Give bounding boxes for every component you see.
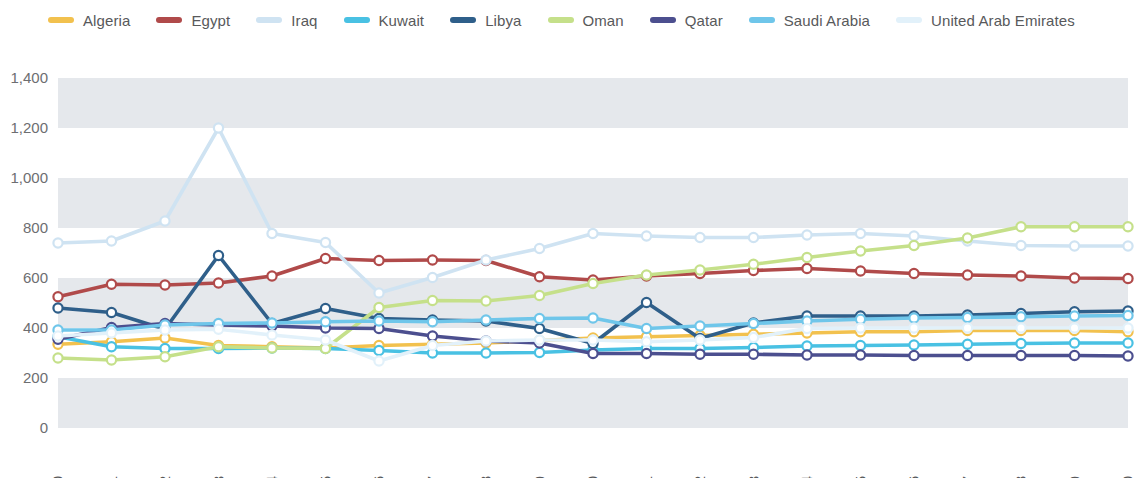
data-point-marker[interactable] [1016,271,1025,280]
data-point-marker[interactable] [1123,241,1132,250]
data-point-marker[interactable] [856,341,865,350]
data-point-marker[interactable] [642,349,651,358]
data-point-marker[interactable] [802,253,811,262]
data-point-marker[interactable] [374,288,383,297]
data-point-marker[interactable] [1016,222,1025,231]
data-point-marker[interactable] [1123,323,1132,332]
data-point-marker[interactable] [374,303,383,312]
data-point-marker[interactable] [695,265,704,274]
data-point-marker[interactable] [856,323,865,332]
data-point-marker[interactable] [481,315,490,324]
data-point-marker[interactable] [695,335,704,344]
data-point-marker[interactable] [642,298,651,307]
data-point-marker[interactable] [588,229,597,238]
data-point-marker[interactable] [856,266,865,275]
data-point-marker[interactable] [642,324,651,333]
data-point-marker[interactable] [214,251,223,260]
data-point-marker[interactable] [374,346,383,355]
data-point-marker[interactable] [321,304,330,313]
data-point-marker[interactable] [1123,311,1132,320]
data-point-marker[interactable] [802,324,811,333]
data-point-marker[interactable] [107,342,116,351]
data-point-marker[interactable] [107,308,116,317]
data-point-marker[interactable] [214,342,223,351]
data-point-marker[interactable] [53,331,62,340]
data-point-marker[interactable] [214,278,223,287]
data-point-marker[interactable] [963,270,972,279]
data-point-marker[interactable] [1070,241,1079,250]
data-point-marker[interactable] [642,270,651,279]
data-point-marker[interactable] [749,260,758,269]
data-point-marker[interactable] [749,233,758,242]
data-point-marker[interactable] [909,323,918,332]
data-point-marker[interactable] [1070,273,1079,282]
data-point-marker[interactable] [535,291,544,300]
data-point-marker[interactable] [374,256,383,265]
data-point-marker[interactable] [214,123,223,132]
data-point-marker[interactable] [802,264,811,273]
data-point-marker[interactable] [963,313,972,322]
data-point-marker[interactable] [1123,274,1132,283]
data-point-marker[interactable] [535,314,544,323]
data-point-marker[interactable] [749,333,758,342]
data-point-marker[interactable] [695,233,704,242]
data-point-marker[interactable] [1070,222,1079,231]
data-point-marker[interactable] [963,323,972,332]
data-point-marker[interactable] [1016,241,1025,250]
data-point-marker[interactable] [909,241,918,250]
data-point-marker[interactable] [909,231,918,240]
data-point-marker[interactable] [1016,351,1025,360]
data-point-marker[interactable] [267,229,276,238]
data-point-marker[interactable] [588,335,597,344]
data-point-marker[interactable] [535,244,544,253]
data-point-marker[interactable] [481,296,490,305]
data-point-marker[interactable] [856,246,865,255]
data-point-marker[interactable] [909,340,918,349]
data-point-marker[interactable] [374,356,383,365]
data-point-marker[interactable] [535,348,544,357]
data-point-marker[interactable] [1123,222,1132,231]
data-point-marker[interactable] [428,331,437,340]
data-point-marker[interactable] [374,316,383,325]
data-point-marker[interactable] [107,236,116,245]
data-point-marker[interactable] [1123,338,1132,347]
data-point-marker[interactable] [321,317,330,326]
data-point-marker[interactable] [802,341,811,350]
data-point-marker[interactable] [1070,323,1079,332]
data-point-marker[interactable] [1123,351,1132,360]
data-point-marker[interactable] [963,340,972,349]
data-point-marker[interactable] [802,350,811,359]
data-point-marker[interactable] [481,255,490,264]
data-point-marker[interactable] [695,350,704,359]
data-point-marker[interactable] [107,328,116,337]
data-point-marker[interactable] [481,348,490,357]
data-point-marker[interactable] [535,324,544,333]
data-point-marker[interactable] [160,216,169,225]
data-point-marker[interactable] [749,319,758,328]
data-point-marker[interactable] [428,341,437,350]
data-point-marker[interactable] [856,350,865,359]
data-point-marker[interactable] [856,229,865,238]
data-point-marker[interactable] [160,325,169,334]
data-point-marker[interactable] [909,313,918,322]
data-point-marker[interactable] [535,272,544,281]
data-point-marker[interactable] [481,336,490,345]
data-point-marker[interactable] [642,231,651,240]
data-point-marker[interactable] [321,238,330,247]
data-point-marker[interactable] [1070,338,1079,347]
data-point-marker[interactable] [267,330,276,339]
data-point-marker[interactable] [588,349,597,358]
data-point-marker[interactable] [107,280,116,289]
data-point-marker[interactable] [802,230,811,239]
data-point-marker[interactable] [963,233,972,242]
data-point-marker[interactable] [267,271,276,280]
data-point-marker[interactable] [428,296,437,305]
data-point-marker[interactable] [909,269,918,278]
data-point-marker[interactable] [267,343,276,352]
data-point-marker[interactable] [428,273,437,282]
data-point-marker[interactable] [588,313,597,322]
data-point-marker[interactable] [695,321,704,330]
data-point-marker[interactable] [53,303,62,312]
data-point-marker[interactable] [1070,351,1079,360]
data-point-marker[interactable] [53,353,62,362]
